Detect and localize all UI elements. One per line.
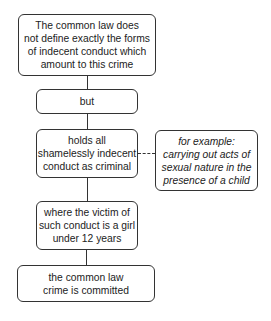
node-but: but [36, 89, 138, 114]
node-text: but [80, 95, 94, 108]
node-victim-girl-under-12: where the victim of such conduct is a gi… [36, 201, 138, 250]
node-crime-committed: the common law crime is committed [17, 265, 155, 302]
node-text: where the victim of such conduct is a gi… [39, 206, 135, 245]
node-text: the common law crime is committed [43, 271, 129, 297]
node-example: for example: carrying out acts of sexual… [155, 130, 258, 191]
connector-n3-n5 [87, 178, 88, 201]
node-text: holds all shamelessly indecent conduct a… [38, 134, 136, 173]
connector-n1-n2 [87, 76, 88, 89]
node-holds-all-indecent-conduct: holds all shamelessly indecent conduct a… [36, 129, 138, 178]
connector-n2-n3 [87, 114, 88, 129]
node-text: The common law does not define exactly t… [24, 19, 150, 71]
node-text: for example: carrying out acts of sexual… [162, 135, 252, 187]
connector-n5-n6 [86, 250, 87, 265]
node-common-law-does-not-define: The common law does not define exactly t… [18, 14, 156, 76]
dashed-connector-n3-n4 [138, 153, 155, 154]
